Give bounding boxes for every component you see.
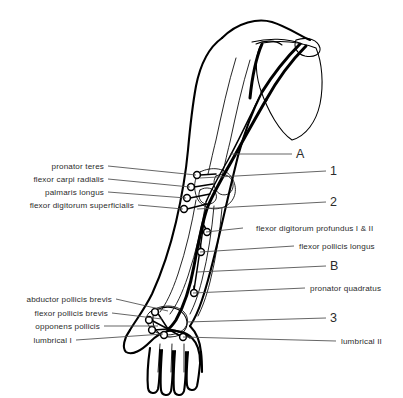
node-lumbrical-i <box>161 332 168 339</box>
label-palmaris-longus: palmaris longus <box>45 188 104 197</box>
node-apb <box>152 309 159 316</box>
label-pronator-teres: pronator teres <box>52 162 105 171</box>
branch-to-pronator-teres <box>200 174 216 175</box>
leader-line-pronator-teres <box>108 166 196 175</box>
humerus-shaft-medial <box>222 60 250 176</box>
node-op <box>149 327 156 334</box>
leader-line-abductor-pollicis-brevis <box>116 299 168 311</box>
label-flexor-digitorum-superficialis: flexor digitorum superficialis <box>30 201 134 210</box>
leader-line-lumbrical-i <box>76 334 163 340</box>
label-abductor-pollicis-brevis: abductor pollicis brevis <box>27 295 112 304</box>
label-marker-b: B <box>330 259 338 273</box>
label-marker-2: 2 <box>330 195 337 209</box>
label-flexor-pollicis-longus: flexor pollicis longus <box>299 242 375 251</box>
median-nerve-figure: pronator teresflexor carpi radialispalma… <box>0 0 403 398</box>
limb-outline-group <box>130 38 262 330</box>
plexus-cord-lateral <box>262 44 300 92</box>
leader-line-marker-2 <box>197 202 326 209</box>
label-marker-3: 3 <box>330 311 337 325</box>
label-flexor-digitorum-profundus: flexor digitorum profundus I & II <box>256 224 373 233</box>
anatomical-diagram: pronator teresflexor carpi radialispalma… <box>0 0 403 398</box>
label-marker-a: A <box>296 147 305 161</box>
leader-line-marker-b <box>197 266 326 272</box>
label-opponens-pollicis: opponens pollicis <box>35 322 100 331</box>
label-flexor-carpi-radialis: flexor carpi radialis <box>33 175 104 184</box>
leader-line-palmaris-longus <box>108 192 186 198</box>
label-pronator-quadratus: pronator quadratus <box>310 284 381 293</box>
leader-line-pronator-quadratus <box>193 288 305 293</box>
marker-group: A12B3 <box>296 147 338 325</box>
leader-line-lumbrical-ii <box>183 337 336 341</box>
leader-line-flexor-digitorum-superficialis <box>138 205 183 209</box>
clavicle-outline <box>222 21 310 40</box>
label-marker-1: 1 <box>330 164 337 178</box>
shoulder-girdle-group <box>222 21 322 140</box>
label-lumbrical-i: lumbrical I <box>33 336 72 345</box>
plexus-cord-medial <box>266 46 306 100</box>
radius-shaft-edge <box>170 202 206 314</box>
branch-to-palmaris-longus <box>190 194 210 198</box>
leader-line-marker-3 <box>186 318 326 322</box>
leader-line-flexor-pollicis-longus <box>200 246 294 252</box>
leader-line-flexor-carpi-radialis <box>108 179 190 187</box>
label-lumbrical-ii: lumbrical II <box>341 337 382 346</box>
humerus-shaft <box>208 58 236 174</box>
leader-line-group <box>76 154 336 341</box>
label-flexor-pollicis-brevis: flexor pollicis brevis <box>35 309 108 318</box>
branch-to-flexor-carpi-radialis <box>194 184 213 187</box>
